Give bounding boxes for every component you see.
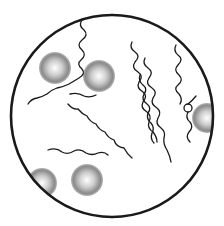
round-cell bbox=[83, 60, 115, 92]
microscope-field-illustration bbox=[0, 0, 224, 226]
spiral-bacteria bbox=[28, 20, 196, 162]
microscope-field-outline bbox=[11, 15, 213, 217]
round-cell bbox=[192, 103, 222, 133]
round-cell bbox=[27, 168, 57, 198]
field-contents bbox=[27, 20, 222, 198]
round-cell bbox=[71, 164, 103, 196]
round-cell bbox=[39, 52, 71, 84]
